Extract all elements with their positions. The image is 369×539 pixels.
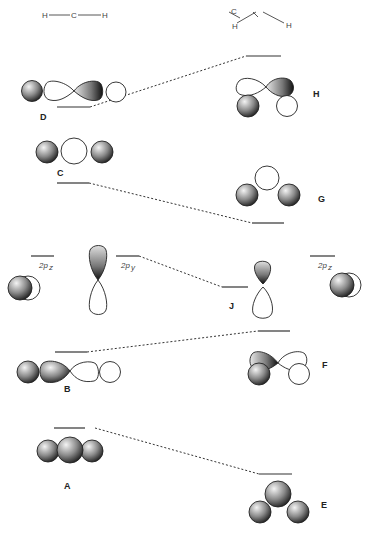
orbital-right-2pz: [330, 273, 361, 297]
correlation-A-E: [95, 428, 259, 474]
orbital-left-2py: [89, 246, 106, 315]
label-H: H: [313, 89, 320, 99]
label-left-2py: 2p y: [120, 261, 136, 272]
atom-h-left: H: [232, 22, 238, 31]
label-left-2pz: 2p z: [38, 261, 53, 272]
orbital-B: [17, 361, 121, 383]
orbital-D: [22, 81, 127, 103]
svg-text:z: z: [48, 263, 53, 272]
label-J: J: [229, 301, 234, 311]
orbital-C: [36, 138, 113, 164]
atom-h-right: H: [102, 11, 108, 20]
orbital-left-2pz: [8, 276, 40, 300]
atom-c: C: [71, 11, 77, 20]
orbital-H: [236, 78, 297, 117]
label-D: D: [40, 112, 47, 122]
svg-text:z: z: [327, 263, 332, 272]
correlation-C-G: [89, 183, 252, 223]
svg-text:2p: 2p: [38, 261, 48, 270]
orbital-G: [236, 166, 300, 206]
bent-molecule: C H H: [228, 7, 292, 31]
orbital-F: [248, 352, 310, 385]
svg-text:2p: 2p: [120, 261, 130, 270]
correlation-B-F: [87, 331, 258, 352]
atom-h-left: H: [42, 11, 48, 20]
svg-text:2p: 2p: [317, 261, 327, 270]
label-C: C: [57, 168, 64, 178]
correlation-py-J: [139, 256, 222, 287]
atom-h-right: H: [286, 21, 292, 30]
walsh-diagram: H C H C H H D: [0, 0, 369, 539]
label-E: E: [321, 500, 327, 510]
label-right-2pz: 2p z: [317, 261, 332, 272]
orbital-E: [249, 481, 309, 523]
orbital-J: [253, 261, 273, 318]
label-G: G: [318, 194, 325, 204]
svg-text:y: y: [130, 263, 136, 272]
label-B: B: [64, 384, 71, 394]
linear-molecule: H C H: [42, 11, 108, 20]
bond-line: [263, 12, 284, 23]
label-F: F: [322, 360, 328, 370]
label-A: A: [64, 481, 71, 491]
orbital-A: [37, 437, 103, 463]
